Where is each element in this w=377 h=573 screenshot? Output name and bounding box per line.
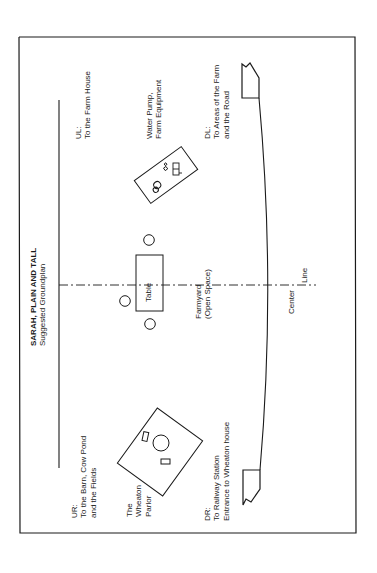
label-line: Line [300,268,309,283]
ur-text-2: and the Fields [89,436,98,518]
label-parlor: The Wheaton Parlor [125,485,153,517]
equipment-crate [173,163,182,175]
dl-text: To Areas of the Farm [212,65,221,139]
label-center: Center [287,290,296,314]
chair-circle-icon [120,296,131,307]
wheaton-parlor [117,408,202,496]
label-ul: UL: To the Farm House [74,71,93,139]
parlor-text: The [125,485,134,517]
title-subtitle: Suggested Groundplan [38,248,47,346]
dr-text: To Railway Station [212,422,221,521]
ul-text: To the Farm House [83,71,92,139]
label-table: Table [144,283,153,302]
apron-curve [259,98,268,470]
chair-circle-icon [145,319,156,330]
parlor-chair-icon [161,459,170,464]
water-pump-text: Water Pump, [145,80,154,139]
line-text: Line [300,268,309,283]
label-ur: UR: To the Barn, Cow Pond and the Fields [70,436,98,518]
parlor-text-2: Wheaton [134,485,143,517]
parlor-text-3: Parlor [144,485,153,517]
center-text: Center [287,290,296,314]
parlor-chair-icon [142,432,149,442]
dr-text-2: Entrance to Wheaton house [222,422,231,521]
parlor-table-circle-icon [153,435,169,451]
dl-flag-icon [242,63,259,98]
groundplan-diagram: SARAH, PLAIN AND TALL Suggested Groundpl… [0,0,377,573]
farmyard-text-2: (Open Space) [203,269,212,319]
title-main: SARAH, PLAIN AND TALL [29,248,38,346]
ul-heading: UL: [74,71,83,139]
label-dr: DR: To Railway Station Entrance to Wheat… [203,422,231,521]
dr-flag-icon [243,470,260,505]
equipment-square-icon [164,163,167,166]
ur-text: To the Barn, Cow Pond [79,436,88,518]
dl-text-2: and the Road [222,65,231,139]
pump-circle-icon [152,186,159,193]
table-text: Table [144,283,153,302]
label-farmyard: Farmyard (Open Space) [194,269,213,319]
label-water-pump: Water Pump, Farm Equipment [145,80,164,139]
water-pump-equipment [134,147,197,204]
ur-heading: UR: [70,436,79,518]
diagram-title: SARAH, PLAIN AND TALL Suggested Groundpl… [29,248,48,346]
dl-heading: DL: [203,65,212,139]
dr-heading: DR: [203,422,212,521]
equipment-square-icon [164,166,168,170]
water-pump-text-2: Farm Equipment [154,80,163,139]
label-dl: DL: To Areas of the Farm and the Road [203,65,231,139]
farmyard-text: Farmyard [194,269,203,319]
chair-circle-icon [144,235,155,246]
